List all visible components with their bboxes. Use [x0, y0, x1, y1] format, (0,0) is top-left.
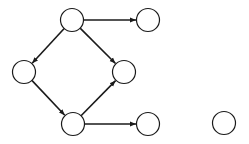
node-E	[62, 113, 85, 136]
node-D	[113, 61, 136, 84]
edge-A-to-C	[32, 28, 64, 63]
node-circle	[137, 113, 160, 136]
arrow-line	[80, 28, 115, 63]
node-A	[61, 9, 84, 32]
node-circle	[61, 9, 84, 32]
edge-C-to-E	[32, 80, 65, 115]
node-circle	[113, 61, 136, 84]
node-C	[13, 61, 36, 84]
node-circle	[213, 112, 236, 135]
arrow-line	[32, 80, 65, 115]
edge-E-to-D	[81, 81, 116, 116]
node-circle	[13, 61, 36, 84]
node-circle	[62, 113, 85, 136]
node-G	[213, 112, 236, 135]
graph-canvas	[0, 0, 249, 144]
nodes-layer	[13, 9, 236, 136]
node-F	[137, 113, 160, 136]
arrow-line	[32, 28, 64, 63]
arrow-line	[81, 81, 116, 116]
node-circle	[137, 9, 160, 32]
node-B	[137, 9, 160, 32]
edge-A-to-D	[80, 28, 115, 63]
